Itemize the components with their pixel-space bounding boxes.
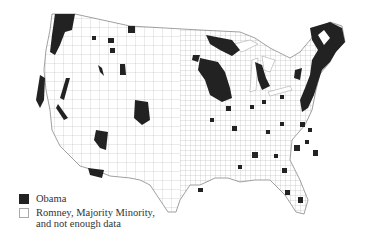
legend: Obama Romney, Majority Minority, and not… — [19, 193, 155, 232]
legend-item-other: Romney, Majority Minority, and not enoug… — [19, 207, 155, 229]
legend-label-other-line2: and not enough data — [36, 218, 155, 229]
black-swatch-icon — [19, 194, 29, 204]
legend-label-other-line1: Romney, Majority Minority, — [36, 207, 155, 218]
legend-label-obama: Obama — [36, 193, 66, 204]
legend-item-obama: Obama — [19, 193, 155, 204]
white-swatch-icon — [19, 208, 29, 218]
